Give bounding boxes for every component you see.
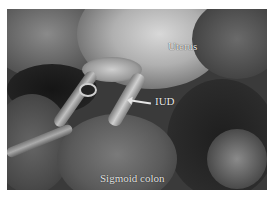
lower-right-tissue (207, 129, 267, 189)
surgical-photo: Uterus IUD Sigmoid colon (7, 9, 267, 190)
iud-device (79, 83, 97, 97)
sigmoid-colon-label: Sigmoid colon (100, 172, 164, 184)
uterus-label: Uterus (168, 40, 197, 52)
iud-label: IUD (155, 95, 175, 107)
iud-arrow (131, 100, 151, 105)
